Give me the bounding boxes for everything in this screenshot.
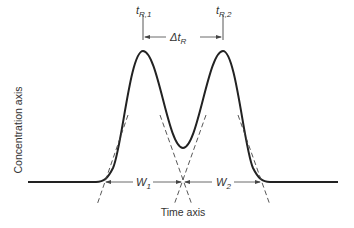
- w2-label: W2: [216, 176, 231, 191]
- x-axis-label: Time axis: [161, 206, 206, 218]
- chromatogram-diagram: tR,1 tR,2 ΔtR W1 W2 Time axis Concentrat…: [0, 0, 354, 228]
- peak1-label: tR,1: [136, 4, 152, 19]
- chromatogram-curve: [28, 51, 338, 182]
- w1-label: W1: [136, 176, 151, 191]
- peak2-label: tR,2: [216, 4, 232, 19]
- delta-tr-label: ΔtR: [169, 31, 186, 46]
- y-axis-label: Concentration axis: [12, 87, 24, 174]
